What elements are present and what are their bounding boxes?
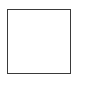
canvas	[0, 0, 94, 85]
empty-square-box	[7, 9, 71, 74]
